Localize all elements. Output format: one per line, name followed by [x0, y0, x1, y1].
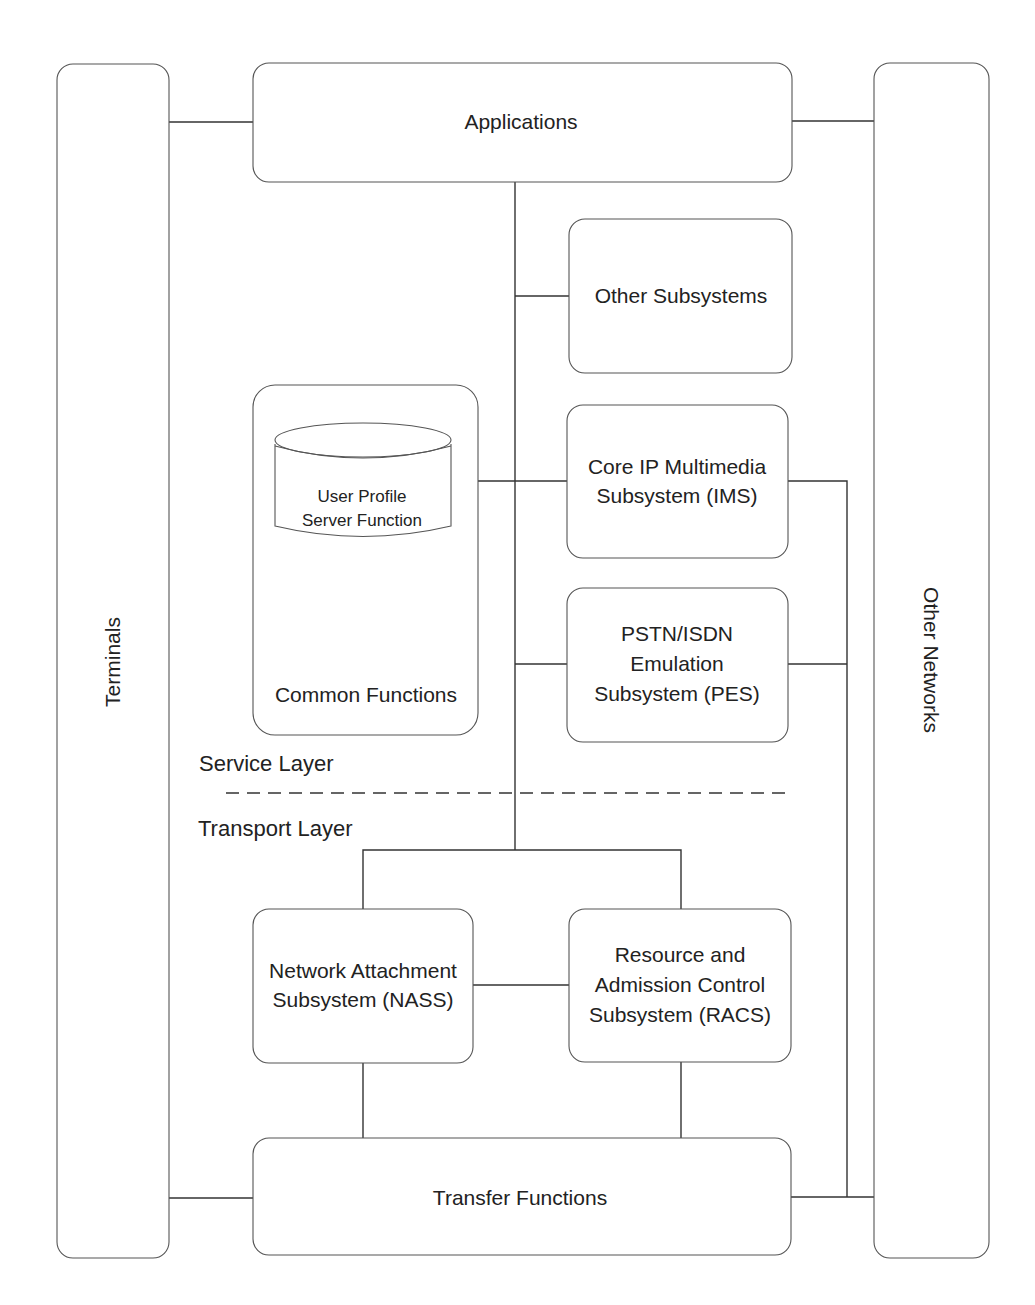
terminals-label: Terminals	[101, 617, 124, 707]
connector-ims-right-bus	[788, 481, 847, 1197]
ngn-architecture-diagram: Terminals Other Networks Applications Ot…	[0, 0, 1035, 1305]
nass-box[interactable]: Network Attachment Subsystem (NASS)	[253, 909, 473, 1063]
transport-layer-label: Transport Layer	[198, 816, 352, 841]
ims-label-line1: Core IP Multimedia	[588, 455, 767, 478]
ims-label-line2: Subsystem (IMS)	[596, 484, 757, 507]
pes-label-line2: Emulation	[630, 652, 723, 675]
transfer-functions-box[interactable]: Transfer Functions	[253, 1138, 791, 1255]
racs-box[interactable]: Resource and Admission Control Subsystem…	[569, 909, 791, 1062]
other-subsystems-box[interactable]: Other Subsystems	[569, 219, 792, 373]
terminals-column[interactable]: Terminals	[57, 64, 169, 1258]
database-label-line2: Server Function	[302, 511, 422, 530]
nass-label-line1: Network Attachment	[269, 959, 457, 982]
service-layer-label: Service Layer	[199, 751, 334, 776]
connector-transport-branch	[363, 850, 681, 909]
racs-label-line1: Resource and	[615, 943, 746, 966]
other-networks-column[interactable]: Other Networks	[874, 63, 989, 1258]
applications-box[interactable]: Applications	[253, 63, 792, 182]
pes-label-line1: PSTN/ISDN	[621, 622, 733, 645]
other-networks-label: Other Networks	[920, 587, 943, 733]
ims-box[interactable]: Core IP Multimedia Subsystem (IMS)	[567, 405, 788, 558]
pes-label-line3: Subsystem (PES)	[594, 682, 760, 705]
transfer-functions-label: Transfer Functions	[433, 1186, 607, 1209]
user-profile-database-icon[interactable]: User Profile Server Function	[275, 423, 451, 537]
pes-box[interactable]: PSTN/ISDN Emulation Subsystem (PES)	[567, 588, 788, 742]
nass-label-line2: Subsystem (NASS)	[273, 988, 454, 1011]
other-subsystems-label: Other Subsystems	[595, 284, 768, 307]
database-label-line1: User Profile	[318, 487, 407, 506]
racs-label-line2: Admission Control	[595, 973, 765, 996]
common-functions-label: Common Functions	[275, 683, 457, 706]
racs-label-line3: Subsystem (RACS)	[589, 1003, 771, 1026]
applications-label: Applications	[464, 110, 577, 133]
